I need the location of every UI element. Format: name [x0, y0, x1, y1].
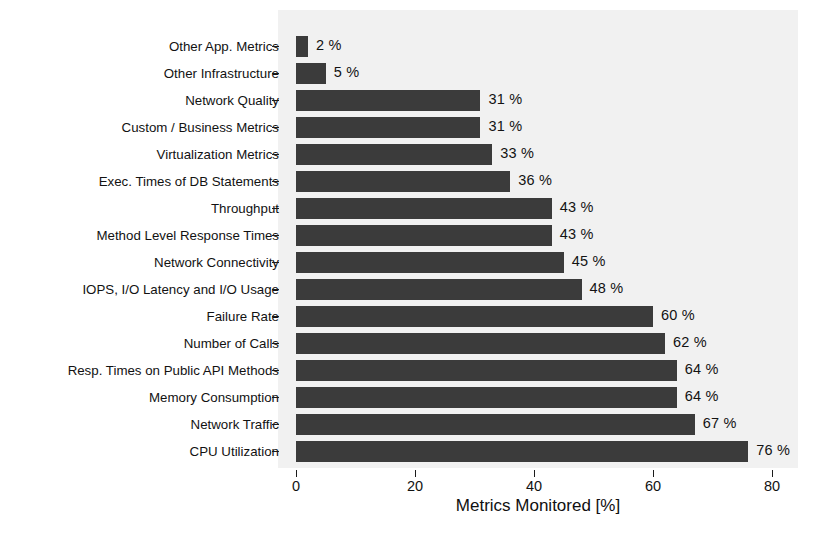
category-label: Other App. Metrics	[7, 33, 279, 60]
bar-10	[296, 279, 582, 300]
category-label: Network Connectivity	[7, 249, 279, 276]
bar-3	[296, 90, 480, 111]
category-label-row: Resp. Times on Public API Methods	[0, 357, 279, 384]
category-tick-mark	[272, 289, 279, 290]
category-tick-mark	[272, 316, 279, 317]
category-label-row: Network Connectivity	[0, 249, 279, 276]
bar-8	[296, 225, 552, 246]
category-tick-mark	[272, 370, 279, 371]
category-tick-mark	[272, 154, 279, 155]
bar-value-label: 64 %	[685, 359, 719, 380]
bar-value-label: 67 %	[703, 413, 737, 434]
category-label-row: Failure Rate	[0, 303, 279, 330]
bar-16	[296, 441, 748, 462]
category-label-row: CPU Utilization	[0, 438, 279, 465]
bar-row: 76 %	[278, 438, 798, 465]
bar-row: 67 %	[278, 411, 798, 438]
bar-value-label: 43 %	[560, 197, 594, 218]
bar-chart: 2 %5 %31 %31 %33 %36 %43 %43 %45 %48 %60…	[0, 0, 833, 539]
category-label: Exec. Times of DB Statements	[7, 168, 279, 195]
category-tick-mark	[272, 46, 279, 47]
category-label-row: Method Level Response Times	[0, 222, 279, 249]
bar-4	[296, 117, 480, 138]
category-label-row: Virtualization Metrics	[0, 141, 279, 168]
x-tick-mark	[415, 470, 416, 477]
bar-row: 43 %	[278, 195, 798, 222]
category-tick-mark	[272, 181, 279, 182]
plot-area: 2 %5 %31 %31 %33 %36 %43 %43 %45 %48 %60…	[278, 10, 798, 468]
category-tick-mark	[272, 397, 279, 398]
category-label: Number of Calls	[7, 330, 279, 357]
bar-row: 43 %	[278, 222, 798, 249]
bar-row: 45 %	[278, 249, 798, 276]
bar-row: 5 %	[278, 60, 798, 87]
category-label: IOPS, I/O Latency and I/O Usage	[7, 276, 279, 303]
bar-value-label: 48 %	[590, 278, 624, 299]
category-label-row: Network Traffic	[0, 411, 279, 438]
category-label: Network Traffic	[7, 411, 279, 438]
category-label: Throughput	[7, 195, 279, 222]
category-tick-mark	[272, 127, 279, 128]
x-tick-label: 0	[292, 478, 300, 494]
category-tick-mark	[272, 262, 279, 263]
category-label-row: Custom / Business Metrics	[0, 114, 279, 141]
bar-row: 2 %	[278, 33, 798, 60]
bar-value-label: 31 %	[488, 89, 522, 110]
bar-row: 64 %	[278, 357, 798, 384]
category-label-row: Memory Consumption	[0, 384, 279, 411]
category-tick-mark	[272, 100, 279, 101]
category-label-row: Number of Calls	[0, 330, 279, 357]
bar-12	[296, 333, 665, 354]
x-tick-label: 60	[645, 478, 661, 494]
bar-value-label: 45 %	[572, 251, 606, 272]
bar-row: 36 %	[278, 168, 798, 195]
category-label-row: IOPS, I/O Latency and I/O Usage	[0, 276, 279, 303]
category-tick-mark	[272, 73, 279, 74]
bar-row: 31 %	[278, 87, 798, 114]
bar-row: 60 %	[278, 303, 798, 330]
bar-6	[296, 171, 510, 192]
bar-9	[296, 252, 564, 273]
bar-value-label: 31 %	[488, 116, 522, 137]
category-label-row: Throughput	[0, 195, 279, 222]
category-label: Other Infrastructure	[7, 60, 279, 87]
bar-row: 64 %	[278, 384, 798, 411]
category-label-row: Exec. Times of DB Statements	[0, 168, 279, 195]
bar-row: 33 %	[278, 141, 798, 168]
bar-value-label: 2 %	[316, 35, 342, 56]
x-tick-label: 20	[407, 478, 423, 494]
category-tick-mark	[272, 343, 279, 344]
x-tick-mark	[534, 470, 535, 477]
bar-row: 62 %	[278, 330, 798, 357]
bar-value-label: 76 %	[756, 440, 790, 461]
x-tick-mark	[772, 470, 773, 477]
bar-7	[296, 198, 552, 219]
x-tick-mark	[653, 470, 654, 477]
bar-2	[296, 63, 326, 84]
bar-value-label: 43 %	[560, 224, 594, 245]
bar-value-label: 36 %	[518, 170, 552, 191]
bar-value-label: 33 %	[500, 143, 534, 164]
category-label: Failure Rate	[7, 303, 279, 330]
category-label: Network Quality	[7, 87, 279, 114]
bar-row: 48 %	[278, 276, 798, 303]
category-tick-mark	[272, 208, 279, 209]
bar-value-label: 64 %	[685, 386, 719, 407]
bar-1	[296, 36, 308, 57]
category-tick-mark	[272, 424, 279, 425]
category-label-row: Network Quality	[0, 87, 279, 114]
bar-11	[296, 306, 653, 327]
category-label: Custom / Business Metrics	[7, 114, 279, 141]
bar-value-label: 5 %	[334, 62, 360, 83]
category-tick-mark	[272, 451, 279, 452]
bar-13	[296, 360, 677, 381]
bar-value-label: 60 %	[661, 305, 695, 326]
bar-value-label: 62 %	[673, 332, 707, 353]
category-label: Memory Consumption	[7, 384, 279, 411]
bar-15	[296, 414, 695, 435]
x-tick-label: 40	[526, 478, 542, 494]
category-tick-mark	[272, 235, 279, 236]
bar-row: 31 %	[278, 114, 798, 141]
category-label: Resp. Times on Public API Methods	[7, 357, 279, 384]
bar-14	[296, 387, 677, 408]
